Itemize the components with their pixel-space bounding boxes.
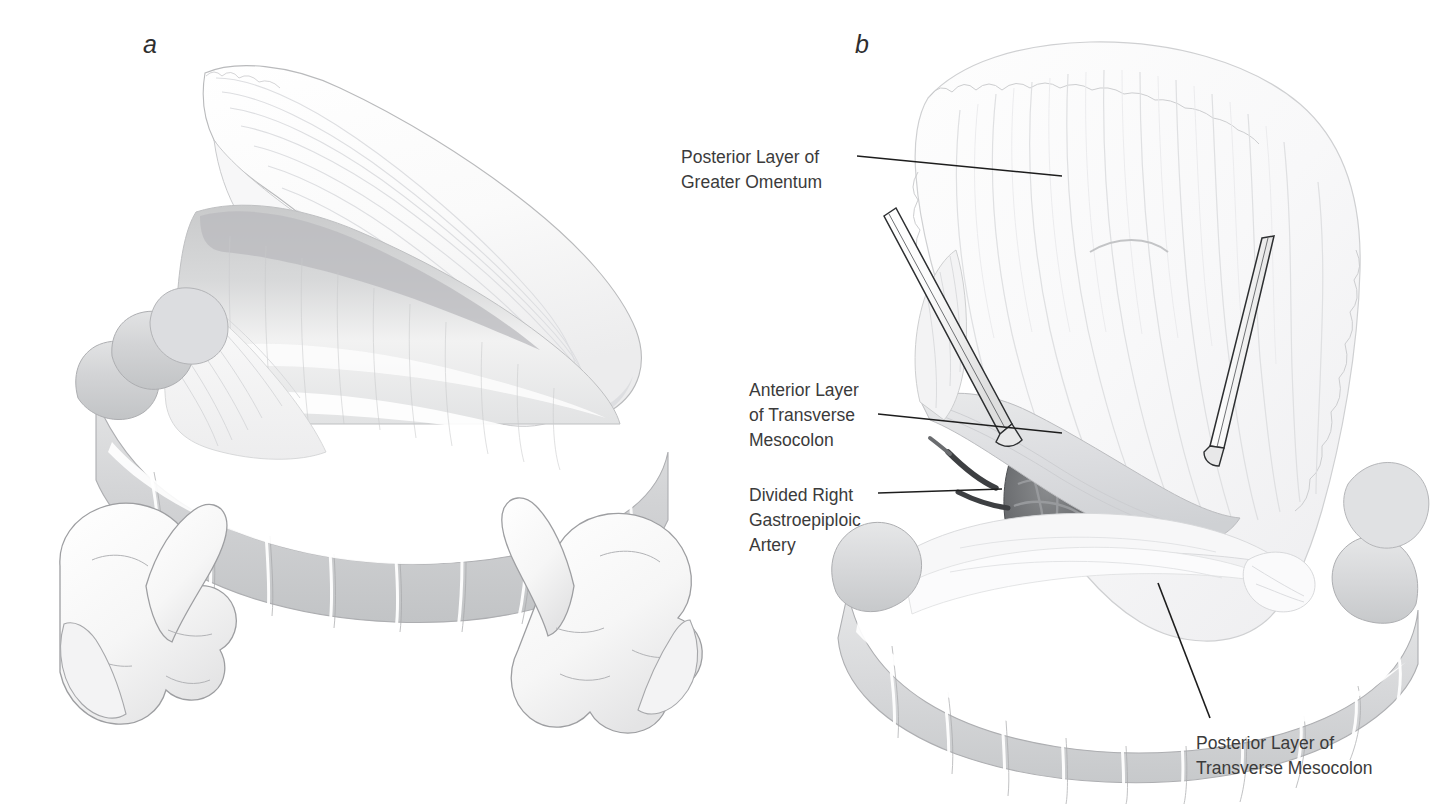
panel-b-left-clamp	[884, 208, 1022, 446]
medical-illustration-figure: a b Posterior Layer of Greater Omentum A…	[0, 0, 1443, 804]
panel-b-lesser-sac	[1004, 443, 1101, 557]
panel-a-greater-omentum	[203, 66, 641, 427]
panel-letter-a: a	[143, 30, 157, 59]
panel-b-right-clamp	[1204, 236, 1274, 466]
panel-a-stomach-band	[175, 205, 620, 470]
label-divided-right-gastroepiploic-artery: Divided Right Gastroepiploic Artery	[749, 483, 861, 558]
panel-a-mesocolon-fan	[164, 290, 326, 459]
leader-posterior-omentum	[857, 156, 1062, 176]
panel-a-artwork	[60, 66, 702, 733]
leader-posterior-mesocolon	[1158, 583, 1210, 718]
panel-b-artwork	[832, 42, 1429, 804]
panel-b-omental-bridge	[1243, 552, 1315, 612]
label-posterior-layer-greater-omentum: Posterior Layer of Greater Omentum	[681, 145, 822, 195]
panel-a-transverse-colon	[76, 288, 668, 632]
panel-letter-b: b	[855, 30, 869, 59]
panel-b-posterior-mesocolon	[900, 513, 1288, 614]
label-posterior-layer-transverse-mesocolon: Posterior Layer of Transverse Mesocolon	[1196, 731, 1372, 781]
illustration-artwork	[0, 0, 1443, 804]
panel-b-greater-omentum	[913, 42, 1360, 641]
leader-gastroepiploic	[878, 489, 1002, 493]
panel-a-right-hand	[502, 498, 703, 733]
leader-lines	[857, 156, 1210, 718]
panel-a-left-hand	[60, 503, 236, 724]
panel-b-anterior-mesocolon	[915, 250, 1240, 546]
label-anterior-layer-transverse-mesocolon: Anterior Layer of Transverse Mesocolon	[749, 378, 859, 453]
leader-anterior-mesocolon	[878, 414, 1062, 433]
panel-b-divided-artery	[930, 438, 1008, 508]
